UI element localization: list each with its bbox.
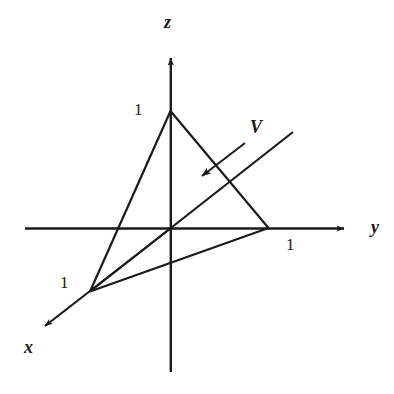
tick-label-y-unit: 1 — [286, 236, 295, 253]
axis-label-y: y — [371, 218, 379, 236]
axis-label-z: z — [164, 13, 171, 31]
axis-label-x: x — [24, 338, 33, 356]
tick-label-z-unit: 1 — [134, 101, 143, 118]
plane-edge-x-y — [90, 228, 269, 292]
ray-through-origin — [90, 132, 293, 292]
plane-triangle — [90, 111, 269, 292]
plane-pointer-arrow — [202, 143, 245, 176]
plane-edge-z-x — [90, 111, 171, 292]
figure-canvas: z y x 1 1 1 V — [0, 0, 394, 394]
tick-label-x-unit: 1 — [60, 274, 69, 291]
plane-label-v: V — [250, 118, 262, 136]
coordinate-diagram-svg — [0, 0, 394, 394]
